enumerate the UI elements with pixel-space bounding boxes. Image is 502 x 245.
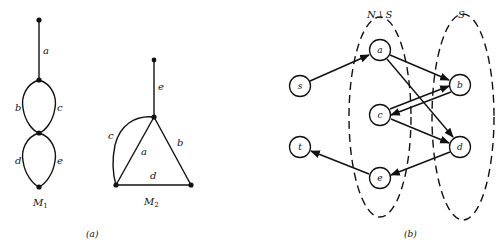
network-b: N \ S S s t a c e — [290, 9, 495, 220]
node-s: s — [290, 76, 311, 97]
arc-d-e — [391, 152, 450, 175]
svg-text:a: a — [377, 45, 382, 55]
m2-label-d: d — [150, 170, 156, 181]
m1-label-d: d — [15, 155, 21, 166]
m1-edge-c — [39, 80, 55, 133]
arc-s-a — [310, 55, 369, 81]
m1-vertex-upper — [36, 77, 41, 82]
m1-label-c: c — [57, 102, 63, 113]
svg-text:e: e — [377, 173, 382, 183]
m2-edge-b — [154, 117, 191, 185]
arc-c-b — [390, 86, 449, 109]
m2-label-c: c — [108, 130, 114, 141]
m1-label-e: e — [57, 155, 63, 166]
caption-a: (a) — [86, 229, 99, 239]
m1-edge-e — [39, 133, 55, 187]
m1-vertex-top — [36, 17, 41, 22]
caption-b: (b) — [404, 229, 417, 239]
label-n-minus-s: N \ S — [366, 9, 392, 20]
svg-text:t: t — [298, 142, 302, 152]
node-a: a — [370, 40, 391, 61]
graph-m1: a b c d e M1 — [15, 17, 63, 210]
arc-b-c — [391, 92, 451, 115]
m2-edge-a — [116, 117, 154, 185]
m1-vertex-bottom — [36, 184, 41, 189]
m2-vertex-apex — [151, 114, 156, 119]
node-c: c — [370, 105, 391, 126]
arc-a-b — [390, 55, 449, 80]
m2-label-a: a — [141, 146, 147, 157]
arc-e-t — [311, 151, 369, 174]
svg-text:c: c — [377, 110, 382, 120]
set-s — [432, 14, 494, 220]
m2-vertex-bottom-left — [113, 182, 118, 187]
node-d: d — [450, 137, 471, 158]
node-t: t — [290, 137, 311, 158]
figure-canvas: a b c d e M1 e c a b d M2 (a) N \ S S — [0, 0, 502, 245]
label-s: S — [458, 9, 465, 20]
m2-label-b: b — [177, 137, 183, 148]
m1-label-a: a — [43, 45, 49, 56]
m2-vertex-top — [152, 58, 157, 63]
m1-vertex-middle — [36, 130, 41, 135]
svg-text:s: s — [298, 81, 303, 91]
graph-m2: e c a b d M2 — [108, 58, 194, 209]
svg-text:b: b — [457, 80, 463, 90]
m1-name: M1 — [32, 197, 48, 210]
m2-label-e: e — [158, 81, 164, 92]
svg-text:d: d — [457, 142, 463, 152]
node-e: e — [370, 168, 391, 189]
m1-edge-b — [23, 80, 39, 133]
m1-label-b: b — [15, 102, 21, 113]
m2-vertex-bottom-right — [188, 182, 193, 187]
m2-name: M2 — [143, 196, 159, 209]
m1-edge-d — [23, 133, 39, 187]
node-b: b — [450, 75, 471, 96]
